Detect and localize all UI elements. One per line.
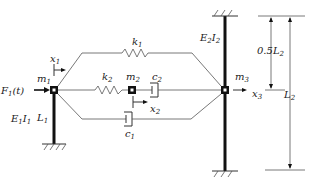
k2-label: k2 [102, 71, 113, 84]
m3-label: m3 [235, 71, 249, 84]
dimension-lines [258, 16, 305, 170]
k1-label: k1 [132, 36, 143, 49]
l1-label: L1 [36, 112, 48, 125]
mechanical-system-diagram: F1(t) m1 m2 m3 k1 k2 c2 c1 x1 x2 x3 E1I1… [0, 0, 312, 183]
x2-arrow-icon [133, 96, 148, 108]
l2-label: L2 [283, 89, 296, 102]
m2-label: m2 [126, 71, 140, 84]
e2i2-label: E2I2 [199, 32, 221, 45]
x3-arrow-icon [233, 88, 247, 92]
c2-label: c2 [152, 71, 163, 84]
force-label: F1(t) [0, 85, 24, 98]
force-arrow-icon [34, 87, 50, 93]
c1-label: c1 [125, 128, 135, 141]
x3-label: x3 [252, 88, 263, 101]
damper-c2 [136, 83, 221, 97]
x2-label: x2 [150, 103, 161, 116]
damper-c1 [58, 94, 221, 126]
e1i1-label: E1I1 [10, 113, 31, 126]
m1-label: m1 [37, 73, 51, 86]
spring-k2 [58, 86, 128, 94]
x1-label: x1 [50, 53, 60, 66]
